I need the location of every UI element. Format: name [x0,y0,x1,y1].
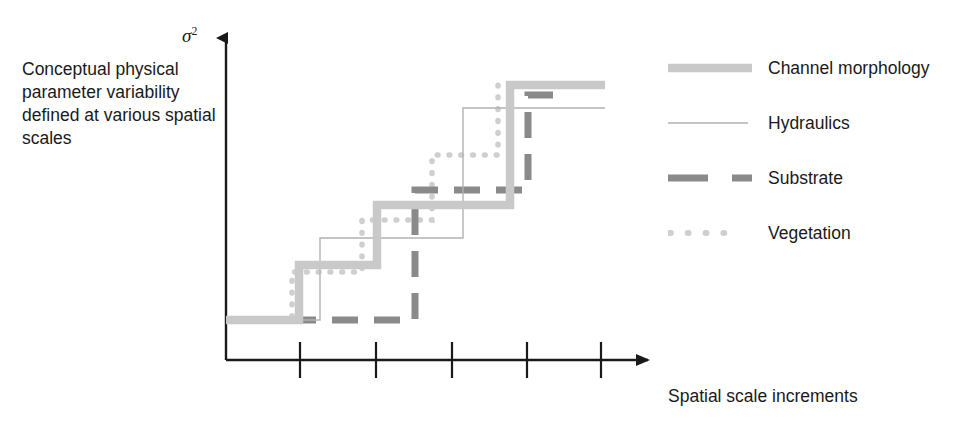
series-hydraulics [292,108,605,320]
legend-label-substrate: Substrate [768,167,843,190]
legend-item-vegetation: Vegetation [668,223,958,278]
legend-label-channel-morphology: Channel morphology [768,57,930,80]
series-channel-morphology [226,85,605,320]
legend: Channel morphology Hydraulics Substrate … [668,58,958,278]
legend-item-channel-morphology: Channel morphology [668,58,958,113]
legend-swatch-channel-morphology [668,58,752,78]
legend-swatch-hydraulics [668,113,752,133]
legend-item-substrate: Substrate [668,168,958,223]
figure-root: Conceptual physical parameter variabilit… [0,0,965,421]
legend-item-hydraulics: Hydraulics [668,113,958,168]
legend-swatch-vegetation [668,223,752,243]
legend-label-vegetation: Vegetation [768,222,851,245]
legend-label-hydraulics: Hydraulics [768,112,850,135]
legend-swatch-substrate [668,168,752,188]
